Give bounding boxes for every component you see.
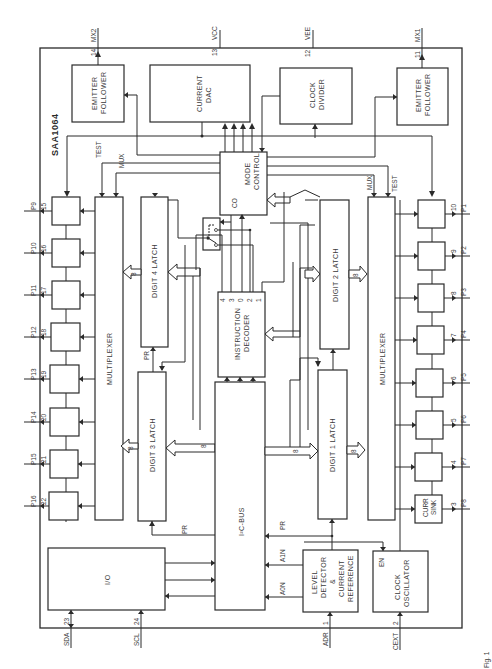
svg-text:DAC: DAC <box>205 87 212 103</box>
svg-text:12: 12 <box>304 49 311 57</box>
io-wires <box>165 560 215 599</box>
svg-text:ADR: ADR <box>322 632 329 646</box>
svg-text:1: 1 <box>322 621 329 625</box>
svg-text:8: 8 <box>127 446 134 450</box>
svg-text:4: 4 <box>219 298 226 302</box>
svg-text:MULTIPLEXER: MULTIPLEXER <box>106 332 113 385</box>
svg-text:P10: P10 <box>30 242 37 254</box>
svg-text:CURR: CURR <box>422 498 429 517</box>
svg-text:DECODER: DECODER <box>243 314 250 352</box>
signal-a0n: A0N <box>279 582 286 595</box>
svg-text:P9: P9 <box>30 202 37 210</box>
right-output-drivers <box>415 200 445 510</box>
svg-text:CONTROL: CONTROL <box>253 153 260 190</box>
svg-text:10: 10 <box>450 203 457 211</box>
signal-test-right: TEST <box>391 175 398 192</box>
svg-text:MULTIPLEXER: MULTIPLEXER <box>379 332 386 385</box>
svg-text:9: 9 <box>450 249 457 253</box>
svg-text:24: 24 <box>133 617 140 625</box>
svg-text:DIGIT 2 LATCH: DIGIT 2 LATCH <box>332 248 339 302</box>
svg-text:8: 8 <box>450 291 457 295</box>
svg-text:P13: P13 <box>30 368 37 380</box>
svg-text:MODE: MODE <box>244 162 251 185</box>
block-instruction-decoder: INSTRUCTION DECODER 4 3 0 2 1 <box>218 292 265 377</box>
svg-text:OSCILLATOR: OSCILLATOR <box>403 559 410 607</box>
signal-a1n: A1N <box>279 549 286 562</box>
block-curr-sink: CURR SINK <box>415 495 442 523</box>
svg-text:11: 11 <box>414 51 421 58</box>
svg-text:DETECTOR: DETECTOR <box>320 556 327 598</box>
signal-mux-left: MUX <box>118 153 125 168</box>
pin-scl: 24 SCL <box>133 610 144 648</box>
svg-text:P4: P4 <box>460 330 467 338</box>
svg-text:DIGIT 1 LATCH: DIGIT 1 LATCH <box>329 418 336 472</box>
bus-into-d3 <box>166 440 215 456</box>
block-current-dac: CURRENT DAC <box>150 65 250 122</box>
pin-vcc: 13 VCC <box>211 26 220 56</box>
svg-text:5: 5 <box>450 418 457 422</box>
svg-text:I/O: I/O <box>104 574 111 585</box>
block-emitter-follower-right: EMITTER FOLLOWER <box>397 68 448 125</box>
svg-text:EMITTER: EMITTER <box>415 78 422 112</box>
svg-text:CO: CO <box>231 198 238 208</box>
svg-text:16: 16 <box>40 244 47 252</box>
svg-text:P6: P6 <box>460 415 467 423</box>
block-clock-divider: CLOCK DIVIDER <box>280 68 352 124</box>
svg-text:13: 13 <box>211 48 218 56</box>
svg-text:EN: EN <box>378 558 385 567</box>
svg-text:P11: P11 <box>30 285 37 296</box>
svg-text:18: 18 <box>40 328 47 336</box>
left-output-drivers <box>49 197 80 522</box>
svg-text:8: 8 <box>352 273 359 277</box>
svg-text:20: 20 <box>40 413 47 421</box>
svg-text:REFERENCE: REFERENCE <box>347 555 354 602</box>
svg-text:15: 15 <box>40 202 47 210</box>
saa1064-block-diagram: SAA1064 14 MX2 13 VCC 12 VEE 11 MX1 EMIT… <box>0 0 492 669</box>
block-io: I/O <box>48 548 165 610</box>
svg-text:2: 2 <box>246 298 253 302</box>
svg-text:1: 1 <box>255 298 262 302</box>
pin-mx2: 14 MX2 <box>90 28 101 65</box>
svg-text:DIVIDER: DIVIDER <box>318 79 325 110</box>
svg-text:14: 14 <box>90 48 97 56</box>
svg-text:CEXT: CEXT <box>392 633 399 650</box>
svg-text:I²C-BUS: I²C-BUS <box>238 507 245 536</box>
pin-cext: 2 CEXT <box>392 612 403 650</box>
block-clock-oscillator: CLOCK OSCILLATOR EN <box>373 551 428 612</box>
svg-text:SCL: SCL <box>133 633 140 646</box>
svg-text:P7: P7 <box>460 457 467 465</box>
svg-text:DIGIT 3 LATCH: DIGIT 3 LATCH <box>149 418 156 472</box>
svg-text:22: 22 <box>40 497 47 505</box>
block-level-detector: LEVEL DETECTOR & CURRENT REFERENCE <box>303 550 358 612</box>
signal-test-left: TEST <box>95 141 102 158</box>
block-emitter-follower-left: EMITTER FOLLOWER <box>72 65 124 122</box>
figure-caption: Fig. 1 <box>483 651 491 668</box>
svg-text:P16: P16 <box>30 495 37 507</box>
svg-text:P3: P3 <box>460 288 467 296</box>
svg-text:SDA: SDA <box>63 632 70 646</box>
block-multiplexer-left: MULTIPLEXER <box>95 197 123 520</box>
svg-text:23: 23 <box>63 617 70 625</box>
svg-text:2: 2 <box>392 621 399 625</box>
svg-text:DIGIT 4 LATCH: DIGIT 4 LATCH <box>151 244 158 298</box>
svg-text:FOLLOWER: FOLLOWER <box>424 74 431 116</box>
svg-text:MX2: MX2 <box>90 28 97 42</box>
svg-text:CURRENT: CURRENT <box>338 560 345 597</box>
pin-sda: 23 SDA <box>63 610 74 648</box>
svg-text:7: 7 <box>450 333 457 337</box>
svg-text:CLOCK: CLOCK <box>394 574 401 600</box>
svg-text:3: 3 <box>450 502 457 506</box>
right-pin-labels: 10 P1 9 P2 8 P3 7 P4 6 P5 5 P6 4 P7 3 P8 <box>450 203 467 507</box>
decoder-inputs <box>224 377 256 382</box>
svg-text:P2: P2 <box>460 246 467 254</box>
bus-into-d4 <box>168 264 200 280</box>
pin-vee: 12 VEE <box>304 26 313 57</box>
svg-text:PR: PR <box>143 351 150 360</box>
svg-text:17: 17 <box>40 286 47 294</box>
svg-text:VCC: VCC <box>211 26 218 40</box>
svg-text:VEE: VEE <box>304 26 311 40</box>
left-pin-labels: P9 15 P10 16 P11 17 P12 18 P13 19 P14 20… <box>30 202 47 507</box>
svg-text:EMITTER: EMITTER <box>91 76 98 110</box>
block-digit1-latch: DIGIT 1 LATCH <box>318 370 347 519</box>
svg-text:LEVEL: LEVEL <box>311 570 318 594</box>
